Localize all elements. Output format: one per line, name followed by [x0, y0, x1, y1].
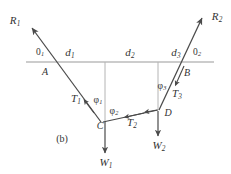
tension-arrow-t2: [126, 113, 144, 117]
tension-arrow-t1: [85, 101, 94, 113]
tension-arrow-t3: [176, 66, 184, 84]
diagram-canvas: [0, 0, 231, 174]
figure-container: R1 R2 01 02 d1 d2 d3 A B C D T1 T2 T3 φ1…: [0, 0, 231, 174]
cable-right-to-r2: [159, 18, 202, 110]
